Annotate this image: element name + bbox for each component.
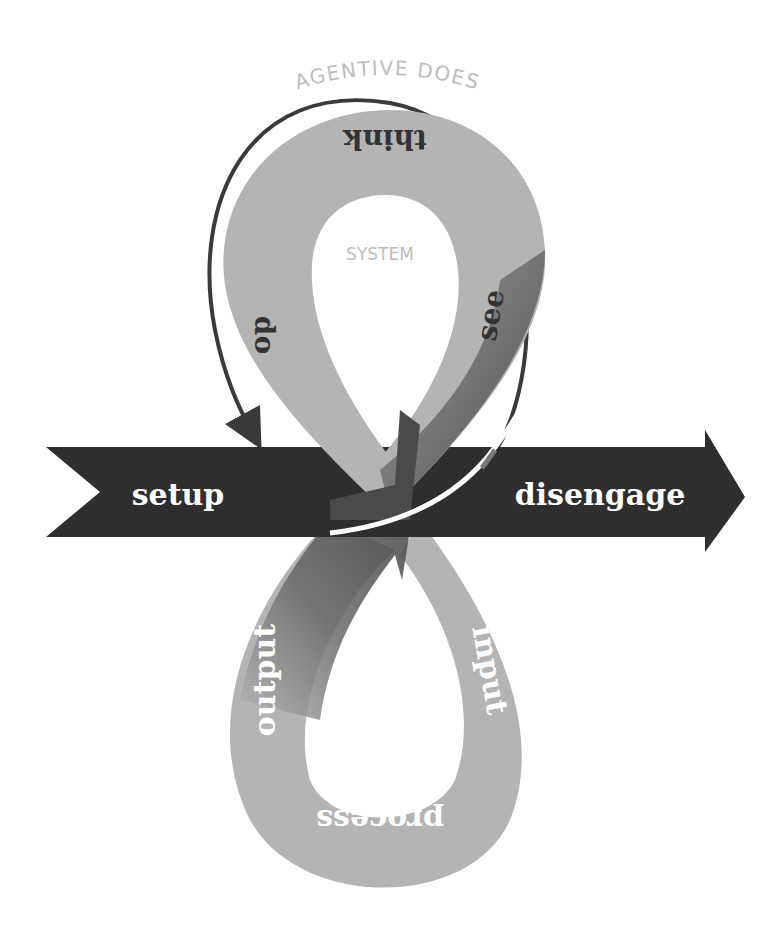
setup-label: setup xyxy=(132,477,225,512)
think-label: think xyxy=(343,123,427,156)
output-label: output xyxy=(247,624,282,736)
process-label: process xyxy=(316,803,444,838)
agentive-does-label: AGENTIVE DOES xyxy=(292,56,483,95)
disengage-label: disengage xyxy=(515,477,686,512)
system-label: SYSTEM xyxy=(346,244,414,264)
infinity-loop-diagram: AGENTIVE DOES think SYSTEM do see setup … xyxy=(0,0,779,931)
do-label: do xyxy=(248,316,281,354)
